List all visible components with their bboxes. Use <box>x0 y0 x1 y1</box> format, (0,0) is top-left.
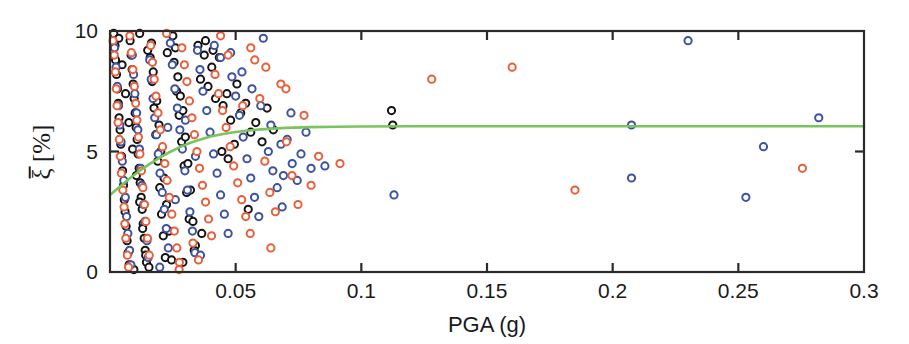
data-point <box>217 54 224 61</box>
data-point <box>120 203 127 210</box>
data-point <box>121 220 128 227</box>
data-point <box>215 90 222 97</box>
data-point <box>113 102 120 109</box>
data-point <box>206 129 213 136</box>
data-point <box>144 235 151 242</box>
data-point <box>147 42 154 49</box>
data-point <box>163 177 170 184</box>
data-point <box>280 172 287 179</box>
data-point <box>124 252 131 259</box>
data-point <box>176 126 183 133</box>
x-tick-label: 0.25 <box>718 279 759 302</box>
data-point <box>176 259 183 266</box>
x-tick-labels: 0.050.10.150.20.250.3 <box>215 279 878 302</box>
data-point <box>125 119 132 126</box>
data-point <box>245 206 252 213</box>
data-point <box>171 85 178 92</box>
data-point <box>111 44 118 51</box>
x-tick-label: 0.15 <box>467 279 508 302</box>
data-point <box>213 170 220 177</box>
data-point <box>112 68 119 75</box>
data-point <box>189 239 196 246</box>
data-point <box>128 49 135 56</box>
data-point <box>129 66 136 73</box>
y-tick-label: 10 <box>75 19 98 42</box>
data-point <box>288 172 295 179</box>
data-point <box>321 162 328 169</box>
data-point <box>283 138 290 145</box>
data-point <box>232 92 239 99</box>
data-point <box>142 218 149 225</box>
data-point <box>122 194 129 201</box>
data-point <box>201 52 208 59</box>
data-point <box>223 124 230 131</box>
data-point <box>169 61 176 68</box>
data-point <box>189 227 196 234</box>
x-tick-label: 0.1 <box>347 279 376 302</box>
data-point <box>111 52 118 59</box>
data-point <box>163 225 170 232</box>
data-point <box>336 160 343 167</box>
data-point <box>159 189 166 196</box>
data-point <box>156 264 163 271</box>
data-point <box>233 80 240 87</box>
data-point <box>274 184 281 191</box>
data-point <box>238 196 245 203</box>
data-point <box>182 133 189 140</box>
data-point <box>186 97 193 104</box>
data-point <box>815 114 822 121</box>
data-point <box>315 153 322 160</box>
data-point <box>161 160 168 167</box>
data-point <box>154 109 161 116</box>
data-point <box>239 102 246 109</box>
data-point <box>225 230 232 237</box>
data-point <box>228 73 235 80</box>
data-point <box>116 136 123 143</box>
data-point <box>132 100 139 107</box>
data-point <box>174 105 181 112</box>
data-point <box>225 52 232 59</box>
data-point <box>166 194 173 201</box>
data-point <box>302 129 309 136</box>
data-point <box>125 264 132 271</box>
data-point <box>134 126 141 133</box>
data-point <box>196 165 203 172</box>
data-point <box>205 215 212 222</box>
data-point <box>221 211 228 218</box>
data-point <box>251 194 258 201</box>
data-point <box>234 179 241 186</box>
data-point <box>297 150 304 157</box>
data-point <box>184 186 191 193</box>
data-point <box>164 124 171 131</box>
data-point <box>202 199 209 206</box>
data-point <box>255 213 262 220</box>
data-point <box>257 102 264 109</box>
data-point <box>260 35 267 42</box>
data-point <box>742 194 749 201</box>
data-point <box>202 37 209 44</box>
data-point <box>227 143 234 150</box>
data-point <box>248 85 255 92</box>
data-point <box>139 225 146 232</box>
y-axis-title: ξ [%] <box>28 125 55 180</box>
data-point <box>230 162 237 169</box>
data-point <box>133 109 140 116</box>
scatter-figure: 0.050.10.150.20.250.3 0510 ξ [%] PGA (g) <box>0 0 909 344</box>
data-point <box>114 119 121 126</box>
data-point <box>282 85 289 92</box>
data-point <box>113 85 120 92</box>
scatter-points-layer <box>109 30 822 273</box>
data-point <box>133 117 140 124</box>
data-point <box>199 182 206 189</box>
plot-canvas: 0.050.10.150.20.250.3 0510 ξ [%] PGA (g) <box>0 0 909 344</box>
data-point <box>146 252 153 259</box>
data-point <box>258 138 265 145</box>
data-point <box>126 32 133 39</box>
data-point <box>388 107 395 114</box>
data-point <box>217 191 224 198</box>
data-point <box>210 150 217 157</box>
data-point <box>211 42 218 49</box>
data-point <box>135 133 142 140</box>
data-point <box>287 109 294 116</box>
data-point <box>265 148 272 155</box>
